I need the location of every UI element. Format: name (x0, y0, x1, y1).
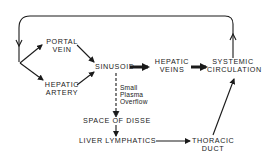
node-space-of-disse: SPACE OF DISSE (83, 117, 151, 125)
node-hepatic-veins: HEPATIC VEINS (152, 58, 192, 74)
node-systemic-circulation: SYSTEMIC CIRCULATION (207, 58, 259, 74)
node-hepatic-artery: HEPATIC ARTERY (44, 81, 80, 97)
overflow-line2: Plasma (120, 91, 148, 98)
diagram-edges (0, 0, 263, 158)
thoracic-duct-line2: DUCT (192, 145, 234, 153)
node-sinusoid: SINUSOID (95, 63, 135, 71)
hepatic-veins-line2: VEINS (152, 66, 192, 74)
systemic-circulation-line2: CIRCULATION (207, 66, 259, 74)
liver-lymphatics-label: LIVER LYMPHATICS (79, 137, 156, 145)
arrow-to-portal-vein (20, 45, 42, 63)
sinusoid-label: SINUSOID (95, 63, 135, 71)
space-of-disse-label: SPACE OF DISSE (83, 117, 151, 125)
portal-vein-line2: VEIN (44, 46, 80, 54)
node-thoracic-duct: THORACIC DUCT (192, 137, 234, 153)
overflow-line3: Overflow (120, 98, 148, 105)
overflow-line1: Small (120, 84, 148, 91)
arrow-thoracic-to-systemic (213, 79, 234, 135)
node-portal-vein: PORTAL VEIN (44, 38, 80, 54)
arrow-to-hepatic-artery (20, 63, 43, 80)
liver-circulation-diagram: PORTAL VEIN HEPATIC ARTERY SINUSOID HEPA… (0, 0, 263, 158)
annotation-small-plasma-overflow: Small Plasma Overflow (120, 84, 148, 106)
hepatic-artery-line2: ARTERY (44, 89, 80, 97)
node-liver-lymphatics: LIVER LYMPHATICS (79, 137, 156, 145)
